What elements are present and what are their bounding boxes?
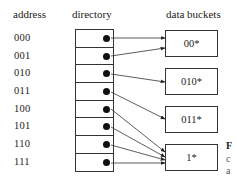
cropped-caption-text: a	[226, 165, 230, 176]
cropped-caption-text: c	[226, 153, 230, 164]
arrow-icon	[111, 48, 165, 56]
pointer-arrows	[0, 0, 237, 181]
arrow-icon	[111, 109, 165, 152]
cropped-caption-text: F	[226, 140, 232, 151]
arrow-icon	[111, 74, 165, 82]
